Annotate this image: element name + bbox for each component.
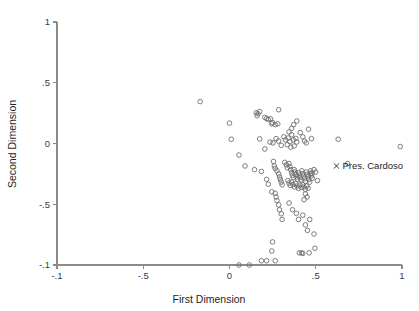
data-point	[290, 207, 295, 212]
data-point	[268, 140, 273, 145]
x-tick-label: 1	[399, 270, 404, 281]
data-point	[307, 217, 312, 222]
data-point	[252, 167, 257, 172]
data-point	[264, 258, 269, 263]
y-tick-label: .5	[42, 77, 50, 88]
data-point	[243, 164, 248, 169]
data-point	[294, 119, 299, 124]
data-point	[305, 228, 310, 233]
data-point	[271, 159, 276, 164]
x-tick-label: -.5	[138, 270, 149, 281]
y-tick-label: 1	[45, 16, 50, 27]
data-point	[306, 127, 311, 132]
data-point	[303, 223, 308, 228]
data-point	[270, 240, 275, 245]
data-point	[276, 107, 281, 112]
data-point	[312, 232, 317, 237]
data-point	[309, 136, 314, 141]
data-point	[287, 201, 292, 206]
data-point	[266, 182, 271, 187]
x-tick-label: 0	[227, 270, 232, 281]
data-point	[315, 178, 320, 183]
data-point	[264, 177, 269, 182]
data-point	[280, 217, 285, 222]
data-point	[294, 211, 299, 216]
data-point	[279, 143, 284, 148]
data-point	[259, 258, 264, 263]
annotation-label: Pres. Cardoso	[342, 160, 403, 171]
data-point	[280, 183, 285, 188]
data-point	[276, 203, 281, 208]
data-point	[398, 144, 403, 149]
data-point	[198, 99, 203, 104]
x-tick-label: .5	[312, 270, 320, 281]
x-tick-labels: -.1-.50.51	[51, 270, 404, 281]
data-point	[273, 258, 278, 263]
data-point	[227, 121, 232, 126]
data-point	[336, 137, 341, 142]
scatter-plot-figure: -.1-.50.51 -.1-.50.51 Pres. Cardoso Firs…	[0, 0, 419, 311]
data-point	[296, 217, 301, 222]
x-axis-title: First Dimension	[173, 293, 246, 305]
y-tick-label: 0	[45, 138, 50, 149]
tick-marks	[53, 22, 402, 269]
annotation-layer: Pres. Cardoso	[334, 160, 403, 171]
data-point	[301, 213, 306, 218]
annotation-pres-cardoso: Pres. Cardoso	[334, 160, 403, 171]
data-point	[298, 130, 303, 135]
data-point	[269, 249, 274, 254]
y-tick-labels: -.1-.50.51	[39, 16, 50, 270]
plot-canvas: -.1-.50.51 -.1-.50.51 Pres. Cardoso Firs…	[0, 0, 419, 311]
x-tick-label: -.1	[51, 270, 62, 281]
y-tick-label: -.5	[39, 199, 50, 210]
data-point	[313, 246, 318, 251]
data-point	[302, 197, 307, 202]
data-point	[307, 251, 312, 256]
data-point	[229, 137, 234, 142]
data-points-layer	[198, 99, 403, 267]
data-point	[271, 141, 276, 146]
data-point	[237, 153, 242, 158]
data-point	[263, 147, 268, 152]
data-point	[279, 211, 284, 216]
data-point	[257, 137, 262, 142]
y-tick-label: -.1	[39, 259, 50, 270]
data-point	[259, 169, 264, 174]
y-axis-title: Second Dimension	[6, 100, 18, 188]
data-point	[289, 132, 294, 137]
